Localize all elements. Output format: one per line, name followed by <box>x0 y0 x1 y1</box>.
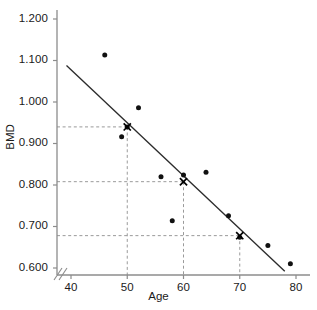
reference-lines-group <box>57 127 240 275</box>
y-tick-label: 0.700 <box>0 219 48 231</box>
data-points-group <box>102 53 293 267</box>
y-tick-label: 0.800 <box>0 178 48 190</box>
bmd-vs-age-scatter-chart: 0.6000.7000.8000.9001.0001.1001.200 4050… <box>0 0 317 310</box>
x-axis-title: Age <box>0 290 317 302</box>
axes-group <box>53 10 310 280</box>
data-point <box>181 173 186 178</box>
data-point <box>265 243 270 248</box>
data-point <box>204 170 209 175</box>
y-tick-label: 0.600 <box>0 261 48 273</box>
y-tick-label: 1.100 <box>0 53 48 65</box>
data-point <box>159 174 164 179</box>
y-tick-label: 1.000 <box>0 95 48 107</box>
y-tick-label: 1.200 <box>0 12 48 24</box>
data-point <box>102 53 107 58</box>
regression-line-group <box>67 65 285 271</box>
data-point <box>136 105 141 110</box>
data-point <box>119 134 124 139</box>
y-axis-title: BMD <box>4 112 16 162</box>
data-point <box>226 213 231 218</box>
data-point <box>170 218 175 223</box>
data-point <box>288 261 293 266</box>
